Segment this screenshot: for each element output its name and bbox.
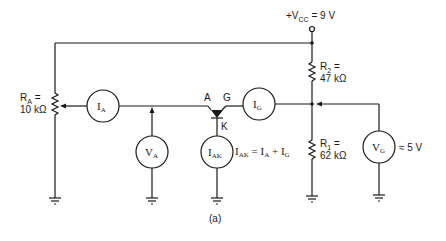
r1-value: 62 kΩ <box>320 150 347 161</box>
junction-dot <box>310 41 314 45</box>
r2-value: 47 kΩ <box>320 73 347 84</box>
va-probe-arrow-icon <box>150 107 155 113</box>
figure-caption: (a) <box>209 213 221 224</box>
ground-icon <box>146 198 158 204</box>
wire <box>222 106 226 110</box>
gate-label: G <box>223 92 231 103</box>
cathode-label: K <box>221 121 228 132</box>
ra-value: 10 kΩ <box>20 104 47 115</box>
r1-resistor-icon <box>309 140 315 159</box>
ground-icon <box>211 198 223 204</box>
ground-icon <box>373 195 385 201</box>
wire <box>208 106 211 110</box>
ground-icon <box>306 196 318 202</box>
scr-thyristor-icon <box>211 110 223 118</box>
vcc-label: +VCC = 9 V <box>286 10 335 23</box>
vg-value-label: ≈ 5 V <box>399 142 423 153</box>
ra-wiper-arrow-icon <box>60 104 66 109</box>
ra-potentiometer-icon <box>52 93 58 115</box>
r2-resistor-icon <box>309 62 315 81</box>
iak-equation: IAK = IA + IG <box>235 145 290 159</box>
anode-label: A <box>204 92 211 103</box>
circuit-diagram: +VCC = 9 V R2 = 47 kΩ RA = 10 kΩ IA VA A… <box>0 0 446 241</box>
vg-wiper-arrow-icon <box>316 102 322 107</box>
ground-icon <box>49 198 61 204</box>
vcc-terminal <box>310 27 315 32</box>
junction-dot <box>310 102 314 106</box>
